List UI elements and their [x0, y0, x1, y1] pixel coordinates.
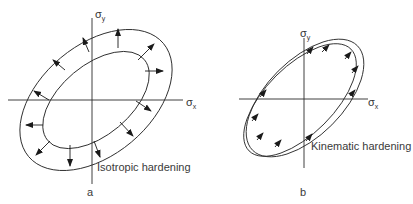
translated-yield-surface [226, 19, 384, 177]
panel-kinematic: σy σx Kinematic hardening b [225, 19, 411, 198]
sigma-x-label: σx [186, 96, 197, 110]
caption-kinematic: Kinematic hardening [311, 140, 411, 152]
sigma-y-label: σy [95, 8, 106, 23]
initial-yield-surface [225, 25, 375, 175]
panel-isotropic: σy σx Isotropic hardening a [0, 1, 199, 198]
hardening-diagram: σy σx Isotropic hardening a [0, 0, 413, 204]
caption-isotropic: Isotropic hardening [97, 161, 191, 173]
panel-label-a: a [87, 186, 94, 198]
panel-label-b: b [300, 186, 306, 198]
sigma-y-label-b: σy [300, 27, 311, 42]
sigma-x-label-b: σx [368, 96, 379, 110]
translation-arrows [252, 45, 358, 147]
